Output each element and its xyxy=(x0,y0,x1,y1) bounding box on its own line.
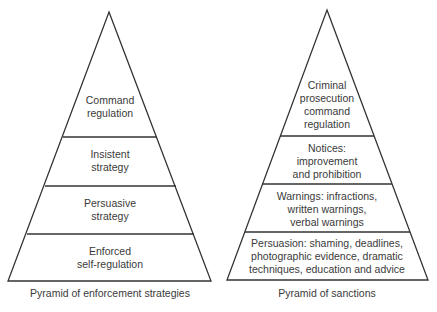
left-tier-3-label: Persuasive strategy xyxy=(84,197,136,223)
label-line: Insistent xyxy=(90,148,129,161)
label-line: strategy xyxy=(90,161,129,174)
left-tier-4-label: Enforced self-regulation xyxy=(77,245,143,271)
right-tier-4-label: Persuasion: shaming, deadlines, photogra… xyxy=(249,237,405,276)
label-line: Enforced xyxy=(77,245,143,258)
label-line: Warnings: infractions, xyxy=(277,190,378,203)
label-line: prosecution xyxy=(300,92,354,105)
label-line: self-regulation xyxy=(77,258,143,271)
label-line: command xyxy=(300,105,354,118)
left-pyramid-shape xyxy=(8,12,211,281)
right-tier-3-label: Warnings: infractions, written warnings,… xyxy=(277,190,378,229)
label-line: Persuasive xyxy=(84,197,136,210)
label-line: photographic evidence, dramatic xyxy=(249,250,405,263)
label-line: Criminal xyxy=(300,79,354,92)
label-line: regulation xyxy=(300,118,354,131)
label-line: Notices: xyxy=(293,142,362,155)
right-pyramid-caption: Pyramid of sanctions xyxy=(278,287,375,299)
right-tier-2-label: Notices: improvement and prohibition xyxy=(293,142,362,181)
label-line: techniques, education and advice xyxy=(249,263,405,276)
left-tier-1-label: Command regulation xyxy=(86,94,134,120)
right-tier-1-label: Criminal prosecution command regulation xyxy=(300,79,354,131)
label-line: Command xyxy=(86,94,134,107)
label-line: improvement xyxy=(293,155,362,168)
label-line: and prohibition xyxy=(293,168,362,181)
label-line: strategy xyxy=(84,210,136,223)
left-tier-2-label: Insistent strategy xyxy=(90,148,129,174)
label-line: written warnings, xyxy=(277,203,378,216)
left-pyramid-caption: Pyramid of enforcement strategies xyxy=(30,287,190,299)
label-line: regulation xyxy=(86,107,134,120)
label-line: verbal warnings xyxy=(277,216,378,229)
label-line: Persuasion: shaming, deadlines, xyxy=(249,237,405,250)
